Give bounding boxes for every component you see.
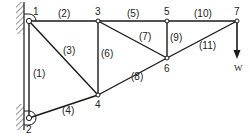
node-label-4: 4 — [95, 99, 101, 110]
node-label-2: 2 — [26, 124, 32, 135]
joint-1 — [26, 18, 31, 23]
load-arrow — [234, 21, 241, 59]
member-label-4: (4) — [62, 105, 74, 116]
joint-5 — [165, 19, 169, 23]
node-label-3: 3 — [95, 6, 101, 17]
member-label-3: (3) — [63, 45, 75, 56]
wall-support-top — [16, 2, 24, 34]
member-label-5: (5) — [127, 8, 139, 19]
members — [29, 21, 237, 118]
load-label: W — [234, 63, 243, 73]
node-label-1: 1 — [33, 6, 39, 17]
wall-support-bottom — [16, 104, 24, 130]
member-label-6: (6) — [101, 48, 113, 59]
joint-3 — [96, 19, 100, 23]
node-label-6: 6 — [164, 63, 170, 74]
member-label-2: (2) — [58, 8, 70, 19]
joint-6 — [165, 56, 169, 60]
member-label-10: (10) — [194, 8, 212, 19]
member-label-8: (8) — [131, 71, 143, 82]
node-label-5: 5 — [164, 6, 170, 17]
joint-7 — [235, 19, 239, 23]
member-label-7: (7) — [139, 31, 151, 42]
member-label-9: (9) — [170, 32, 182, 43]
node-label-7: 7 — [234, 6, 240, 17]
joint-2 — [26, 115, 31, 120]
member-3 — [29, 21, 98, 95]
member-label-1: (1) — [33, 68, 45, 79]
joint-4 — [96, 93, 100, 97]
member-label-11: (11) — [199, 40, 216, 51]
joints — [26, 18, 239, 120]
truss-diagram: W 1 2 3 4 5 6 7 (1) (2) (3) (4) (5) (6) … — [0, 0, 250, 137]
